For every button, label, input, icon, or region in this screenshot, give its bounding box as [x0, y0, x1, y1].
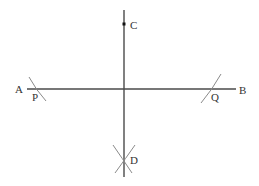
- perpendicular-construction-diagram: A B P Q C D: [0, 0, 259, 186]
- label-b: B: [239, 84, 246, 96]
- label-a: A: [15, 83, 23, 95]
- label-q: Q: [211, 91, 219, 103]
- point-c-marker: [123, 23, 126, 26]
- label-p: P: [32, 91, 38, 103]
- label-c: C: [130, 19, 137, 31]
- label-d: D: [130, 154, 138, 166]
